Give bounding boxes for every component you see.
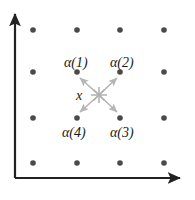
lattice-dot [117,160,123,166]
label-alpha1: α(1) [64,56,88,70]
diagram-canvas [0,0,195,200]
label-alpha3: α(3) [110,126,134,140]
lattice-dot [117,27,123,33]
lattice-dot [161,160,167,166]
lattice-dot [30,115,36,121]
lattice-dot [161,27,167,33]
label-alpha4: α(4) [62,126,86,140]
lattice-dot-alpha4 [74,115,80,121]
lattice-dot [30,69,36,75]
lattice-dot [161,69,167,75]
label-center-x: x [76,89,82,103]
lattice-dot-alpha2 [117,69,123,75]
lattice-dot-alpha3 [117,115,123,121]
lattice-dot [74,160,80,166]
lattice-dot [161,115,167,121]
lattice-dot [30,160,36,166]
lattice-neighbour-diagram: α(1) α(2) α(3) α(4) x [0,0,195,200]
lattice-dot [30,27,36,33]
lattice-dot [74,27,80,33]
lattice-dot-alpha1 [74,69,80,75]
label-alpha2: α(2) [110,56,134,70]
